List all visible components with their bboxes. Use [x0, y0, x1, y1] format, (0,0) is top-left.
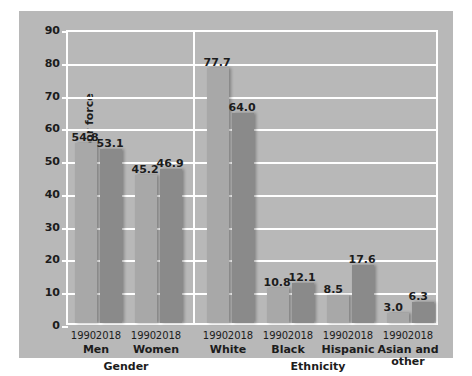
x-axis-year-label: 2018: [224, 330, 258, 341]
y-axis-tick: [62, 129, 68, 131]
y-axis-tick-label: 50: [45, 155, 60, 168]
bar-value-label: 46.9: [157, 157, 184, 170]
section-label-gender: Gender: [66, 360, 186, 373]
y-axis-tick: [62, 195, 68, 197]
gridline: [68, 64, 436, 66]
gridline: [68, 97, 436, 99]
x-axis-category-label: Women: [118, 344, 194, 356]
x-axis-year-label: 2018: [344, 330, 378, 341]
x-axis-year-label: 2018: [404, 330, 438, 341]
bar-black-2018: [292, 283, 314, 323]
bar-value-label: 12.1: [289, 271, 316, 284]
bar-value-label: 53.1: [97, 137, 124, 150]
bar-chart-figure: 0102030405060708090 Percentage of labor …: [0, 0, 472, 376]
y-axis-tick-label: 0: [52, 319, 60, 332]
bar-asian-and-other-1990: [387, 313, 409, 323]
bar-men-2018: [100, 149, 122, 323]
y-axis-tick-label: 60: [45, 122, 60, 135]
y-axis-tick-label: 90: [45, 24, 60, 37]
x-axis-category-label: Asian and other: [370, 344, 446, 368]
bar-women-1990: [135, 175, 157, 323]
y-axis-tick-label: 10: [45, 286, 60, 299]
bar-value-label: 17.6: [349, 253, 376, 266]
bar-hispanic-2018: [352, 265, 374, 323]
bar-value-label: 77.7: [204, 56, 231, 69]
bar-value-label: 6.3: [409, 290, 429, 303]
section-divider: [193, 32, 195, 323]
bar-value-label: 64.0: [229, 101, 256, 114]
bar-white-1990: [207, 68, 229, 323]
bar-value-label: 8.5: [324, 283, 344, 296]
y-axis-tick-labels: 0102030405060708090: [30, 0, 60, 376]
x-axis-year-label: 2018: [92, 330, 126, 341]
y-axis-tick: [62, 162, 68, 164]
y-axis-tick: [62, 293, 68, 295]
bar-value-label: 10.8: [264, 276, 291, 289]
bar-white-2018: [232, 113, 254, 323]
y-axis-tick: [62, 31, 68, 33]
bar-men-1990: [75, 143, 97, 323]
bar-value-label: 54.8: [72, 131, 99, 144]
y-axis-tick: [62, 64, 68, 66]
bar-hispanic-1990: [327, 295, 349, 323]
bar-value-label: 3.0: [384, 301, 404, 314]
y-axis-tick: [62, 326, 68, 328]
x-axis-year-label: 2018: [284, 330, 318, 341]
x-axis-year-label: 2018: [152, 330, 186, 341]
y-axis-tick: [62, 260, 68, 262]
plot-area: Percentage of labor force: [66, 30, 438, 325]
y-axis-tick-label: 40: [45, 187, 60, 200]
y-axis-tick-label: 70: [45, 89, 60, 102]
bar-black-1990: [267, 288, 289, 323]
bar-asian-and-other-2018: [412, 302, 434, 323]
bar-women-2018: [160, 169, 182, 323]
y-axis-tick-label: 80: [45, 56, 60, 69]
bar-value-label: 45.2: [132, 163, 159, 176]
y-axis-tick: [62, 97, 68, 99]
y-axis-tick-label: 20: [45, 253, 60, 266]
y-axis-tick: [62, 228, 68, 230]
y-axis-tick-label: 30: [45, 220, 60, 233]
